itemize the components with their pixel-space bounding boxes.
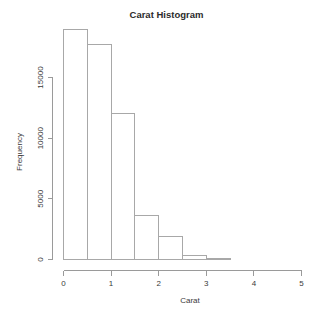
histogram-chart: Carat Histogram 050001000015000 Frequenc…	[0, 0, 333, 320]
y-tick-label: 10000	[36, 127, 45, 150]
x-tick-label: 5	[299, 279, 304, 288]
x-tick-label: 1	[109, 279, 114, 288]
histogram-bar	[159, 237, 183, 260]
y-tick-label: 0	[36, 257, 45, 262]
x-tick-label: 2	[156, 279, 161, 288]
histogram-plot-container: Carat Histogram 050001000015000 Frequenc…	[0, 0, 333, 320]
y-tick-label: 15000	[36, 66, 45, 89]
y-axis-title: Frequency	[15, 133, 24, 171]
y-tick-label: 5000	[36, 189, 45, 207]
plot-background	[0, 0, 333, 320]
x-tick-label: 3	[204, 279, 209, 288]
histogram-bar	[64, 30, 88, 260]
x-tick-label: 0	[61, 279, 66, 288]
histogram-bar	[111, 114, 135, 260]
x-axis-title: Carat	[180, 296, 200, 305]
histogram-bar	[206, 259, 230, 260]
page-title: Carat Histogram	[130, 9, 204, 20]
histogram-bar	[183, 256, 207, 260]
histogram-bar	[135, 216, 159, 260]
x-tick-label: 4	[252, 279, 257, 288]
histogram-bar	[87, 45, 111, 260]
